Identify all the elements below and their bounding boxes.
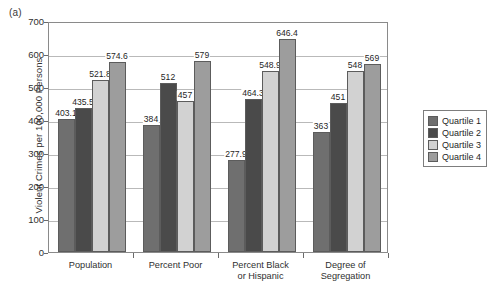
bar[interactable]: 646.4 (279, 39, 296, 252)
y-tick-label: 700 (10, 16, 44, 27)
y-tick-label: 200 (10, 181, 44, 192)
legend-swatch-icon (428, 140, 438, 150)
bar[interactable]: 579 (194, 61, 211, 252)
legend-item-label: Quartile 3 (442, 140, 481, 150)
bar[interactable]: 569 (364, 64, 381, 252)
legend-item[interactable]: Quartile 3 (428, 139, 481, 150)
x-tick-mark (218, 253, 219, 258)
bar-value-label: 569 (364, 54, 380, 63)
bar[interactable]: 451 (330, 103, 347, 252)
bar-group-bars: 363451548569 (304, 23, 389, 252)
chart-figure: (a) Violent Crimes per 100,000 Persons 0… (0, 0, 499, 297)
legend-item[interactable]: Quartile 2 (428, 127, 481, 138)
x-category-label-line: Degree of (291, 260, 401, 271)
x-tick-mark (303, 253, 304, 258)
bar-value-label: 363 (313, 122, 329, 131)
bar-value-label: 548 (347, 61, 363, 70)
bar-group: 277.9464.3548.9646.4 (219, 23, 304, 252)
bar[interactable]: 435.5 (75, 108, 92, 252)
legend: Quartile 1Quartile 2Quartile 3Quartile 4 (423, 110, 487, 167)
bar[interactable]: 574.6 (109, 62, 126, 252)
bar[interactable]: 384 (143, 125, 160, 252)
bar[interactable]: 363 (313, 132, 330, 252)
bar[interactable]: 548.9 (262, 71, 279, 252)
bar-value-label: 512 (160, 73, 176, 82)
legend-swatch-icon (428, 116, 438, 126)
bar[interactable]: 548 (347, 71, 364, 252)
legend-item[interactable]: Quartile 4 (428, 151, 481, 162)
plot-inner: 403.1435.5521.8574.6384512457579277.9464… (49, 23, 387, 252)
bar[interactable]: 403.1 (58, 119, 75, 252)
bar-group: 403.1435.5521.8574.6 (49, 23, 134, 252)
bar[interactable]: 521.8 (92, 80, 109, 252)
bar-group-bars: 403.1435.5521.8574.6 (49, 23, 134, 252)
bar-value-label: 384 (143, 115, 159, 124)
bar-group: 363451548569 (304, 23, 389, 252)
bar[interactable]: 512 (160, 83, 177, 252)
x-tick-mark (133, 253, 134, 258)
bar-value-label: 451 (330, 93, 346, 102)
y-tick-label: 500 (10, 82, 44, 93)
bar-value-label: 579 (194, 51, 210, 60)
legend-swatch-icon (428, 128, 438, 138)
bar[interactable]: 464.3 (245, 99, 262, 252)
y-tick-label: 600 (10, 49, 44, 60)
legend-item-label: Quartile 1 (442, 116, 481, 126)
plot-area: 403.1435.5521.8574.6384512457579277.9464… (48, 22, 388, 253)
y-tick-label: 0 (10, 247, 44, 258)
bar[interactable]: 457 (177, 101, 194, 252)
bar-value-label: 646.4 (275, 29, 299, 38)
legend-item[interactable]: Quartile 1 (428, 115, 481, 126)
x-category-label-line: Segregation (291, 271, 401, 282)
x-category-label: Degree ofSegregation (291, 260, 401, 282)
bar-group-bars: 384512457579 (134, 23, 219, 252)
bar[interactable]: 277.9 (228, 160, 245, 252)
y-tick-mark (44, 253, 48, 254)
legend-item-label: Quartile 2 (442, 128, 481, 138)
legend-item-label: Quartile 4 (442, 152, 481, 162)
bar-value-label: 574.6 (105, 52, 129, 61)
y-tick-label: 100 (10, 214, 44, 225)
y-tick-label: 300 (10, 148, 44, 159)
legend-swatch-icon (428, 152, 438, 162)
y-tick-label: 400 (10, 115, 44, 126)
x-tick-mark (388, 253, 389, 258)
bar-value-label: 457 (177, 91, 193, 100)
bar-group: 384512457579 (134, 23, 219, 252)
bar-group-bars: 277.9464.3548.9646.4 (219, 23, 304, 252)
